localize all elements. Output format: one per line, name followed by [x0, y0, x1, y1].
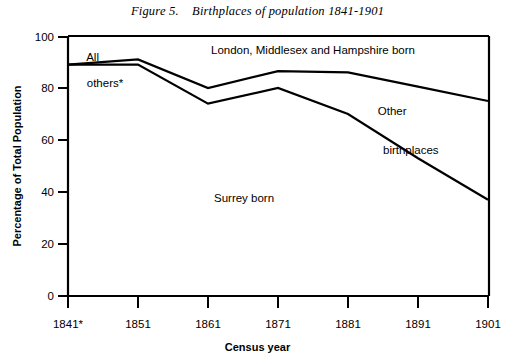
y-axis-title: Percentage of Total Population	[11, 66, 23, 266]
x-tick-label-1841: 1841*	[38, 318, 98, 330]
annotation-other-birthplaces: Other birthplaces	[365, 92, 439, 183]
y-tick-marks	[58, 37, 68, 296]
annotation-all-others-line1: All	[86, 51, 99, 63]
y-tick-label-80: 80	[20, 82, 54, 94]
y-tick-label-40: 40	[20, 186, 54, 198]
y-tick-label-60: 60	[20, 134, 54, 146]
x-tick-label-1891: 1891	[388, 318, 448, 330]
annotation-other-line1: Other	[378, 105, 407, 117]
annotation-other-line2: birthplaces	[365, 144, 439, 157]
x-tick-label-1871: 1871	[248, 318, 308, 330]
x-axis-title: Census year	[0, 341, 515, 353]
annotation-surrey-born: Surrey born	[214, 192, 274, 205]
annotation-london-middlesex-hampshire: London, Middlesex and Hampshire born	[211, 44, 415, 57]
x-tick-label-1851: 1851	[108, 318, 168, 330]
y-tick-label-0: 0	[20, 290, 54, 302]
x-tick-label-1861: 1861	[178, 318, 238, 330]
annotation-all-others-line2: others*	[87, 77, 123, 89]
y-tick-label-100: 100	[20, 31, 54, 43]
annotation-all-others: All others*	[74, 38, 123, 103]
x-tick-label-1901: 1901	[458, 318, 515, 330]
y-tick-label-20: 20	[20, 238, 54, 250]
x-tick-marks	[68, 296, 488, 308]
chart-plot-area: 100 80 60 40 20 0 1841* 1851 1861 1871 1…	[0, 0, 515, 364]
x-tick-label-1881: 1881	[318, 318, 378, 330]
